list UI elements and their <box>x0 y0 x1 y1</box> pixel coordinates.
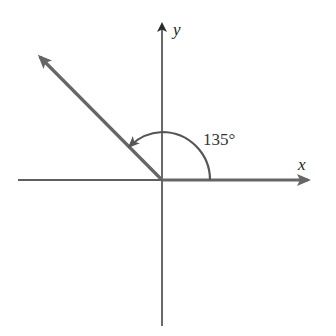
angle-measure-label: 135° <box>203 130 235 149</box>
y-axis-label: y <box>171 20 181 39</box>
angle-arc <box>130 132 210 180</box>
terminal-side-ray <box>40 57 162 180</box>
x-axis-label: x <box>297 155 306 174</box>
angle-diagram: y x 135° <box>0 0 336 336</box>
